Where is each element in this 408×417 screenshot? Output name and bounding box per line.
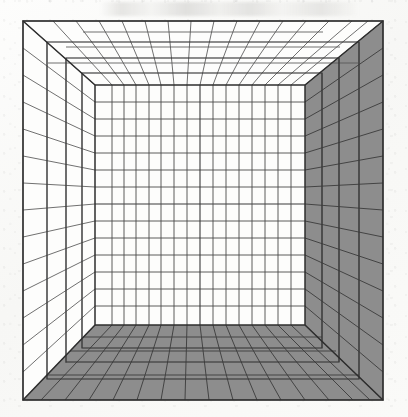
one-point-perspective-room-drawing [0, 0, 408, 417]
figure-canvas [0, 0, 408, 417]
